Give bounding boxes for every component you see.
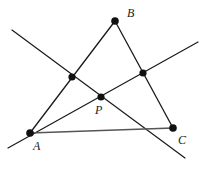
label-point-c: C bbox=[178, 134, 186, 146]
label-point-a: A bbox=[33, 140, 40, 152]
label-point-p: P bbox=[95, 104, 102, 116]
geometry-figure: B P A C bbox=[0, 0, 209, 171]
label-point-b: B bbox=[127, 7, 134, 19]
point-c bbox=[169, 124, 177, 132]
point-p bbox=[97, 93, 104, 100]
point-a bbox=[26, 129, 34, 137]
point-m2 bbox=[139, 69, 146, 76]
point-m1 bbox=[68, 73, 75, 80]
point-b bbox=[111, 17, 119, 25]
segment-side-ac bbox=[30, 128, 173, 133]
